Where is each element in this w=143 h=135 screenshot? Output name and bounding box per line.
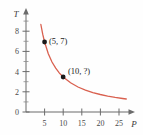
plot-area: 0 2 4 6 8 5 10 15 20 25 T P (5, 7) (10, … (0, 0, 143, 135)
annotation-point-1: (5, 7) (49, 36, 68, 46)
x-tick-label-15: 15 (78, 119, 86, 128)
annotation-point-2: (10, ?) (68, 66, 90, 76)
x-axis-arrow-icon (129, 109, 136, 115)
x-tick-label-20: 20 (96, 119, 104, 128)
x-axis-label: P (130, 119, 137, 129)
y-axis-arrow-icon (23, 8, 29, 15)
y-tick-label-2: 2 (15, 88, 19, 97)
data-point-5-7[interactable] (42, 40, 47, 45)
y-tick-label-8: 8 (15, 27, 19, 36)
x-tick-label-10: 10 (59, 119, 67, 128)
x-tick-label-25: 25 (115, 119, 123, 128)
y-axis-label: T (13, 9, 19, 19)
x-tick-label-5: 5 (43, 119, 47, 128)
y-tick-label-6: 6 (15, 47, 19, 56)
y-tick-label-0: 0 (15, 108, 19, 117)
data-point-10-unknown[interactable] (61, 75, 66, 80)
chart-figure: 0 2 4 6 8 5 10 15 20 25 T P (5, 7) (10, … (0, 0, 143, 135)
y-tick-label-4: 4 (15, 68, 19, 77)
